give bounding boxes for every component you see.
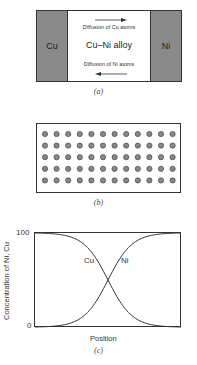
atom-icon — [66, 178, 71, 183]
atom-icon — [89, 155, 94, 160]
atom-icon — [135, 166, 140, 171]
atom-icon — [112, 178, 117, 183]
caption-b: (b) — [0, 198, 197, 207]
atom-icon — [124, 155, 129, 160]
atom-icon — [42, 178, 47, 183]
atom-icon — [54, 166, 59, 171]
atom-icon — [147, 143, 152, 148]
atom-icon — [100, 143, 105, 148]
atom-icon — [66, 166, 71, 171]
atom-icon — [77, 155, 82, 160]
atom-icon — [170, 166, 175, 171]
atom-icon — [112, 155, 117, 160]
atom-icon — [158, 178, 163, 183]
atom-icon — [89, 178, 94, 183]
arrow-right-icon — [95, 17, 127, 23]
atom-icon — [124, 166, 129, 171]
atom-icon — [135, 131, 140, 136]
atom-grid — [37, 124, 180, 192]
atom-icon — [158, 155, 163, 160]
atom-icon — [100, 131, 105, 136]
atom-icon — [42, 143, 47, 148]
atom-icon — [66, 131, 71, 136]
atom-icon — [77, 178, 82, 183]
ni-diffusion-label: Diffusion of Ni atoms — [68, 61, 150, 67]
atom-icon — [112, 131, 117, 136]
caption-a: (a) — [0, 87, 197, 96]
ni-block: Ni — [150, 11, 181, 81]
alloy-label: Cu–Ni alloy — [68, 40, 150, 50]
atom-icon — [147, 178, 152, 183]
atom-icon — [66, 143, 71, 148]
atom-icon — [147, 155, 152, 160]
ni-label: Ni — [162, 41, 171, 51]
atom-icon — [158, 143, 163, 148]
atom-icon — [124, 143, 129, 148]
atom-icon — [147, 166, 152, 171]
atom-icon — [42, 166, 47, 171]
ni-curve — [35, 233, 181, 327]
atom-icon — [66, 155, 71, 160]
atom-icon — [170, 131, 175, 136]
atom-icon — [158, 131, 163, 136]
cu-block: Cu — [37, 11, 68, 81]
diffusion-couple-diagram: Cu Diffusion of Cu atoms Cu–Ni alloy Dif… — [36, 10, 182, 82]
x-axis-label: Position — [90, 334, 117, 343]
alloy-atom-lattice — [36, 123, 181, 193]
arrow-left-icon — [95, 71, 127, 77]
cu-label: Cu — [46, 41, 58, 51]
atom-icon — [77, 143, 82, 148]
atom-icon — [135, 155, 140, 160]
atom-icon — [89, 143, 94, 148]
y-tick-0: 0 — [27, 321, 31, 330]
cu-diffusion-label: Diffusion of Cu atoms — [68, 24, 150, 30]
atom-icon — [77, 166, 82, 171]
atom-icon — [54, 143, 59, 148]
atom-icon — [135, 178, 140, 183]
atom-icon — [54, 178, 59, 183]
atom-icon — [100, 155, 105, 160]
atom-icon — [42, 155, 47, 160]
atom-icon — [170, 178, 175, 183]
atom-icon — [54, 131, 59, 136]
cu-curve-label: Cu — [84, 256, 94, 265]
ni-curve-label: Ni — [121, 256, 129, 265]
atom-icon — [112, 143, 117, 148]
caption-c: (c) — [0, 346, 197, 355]
atom-icon — [124, 178, 129, 183]
atom-icon — [135, 143, 140, 148]
alloy-region: Diffusion of Cu atoms Cu–Ni alloy Diffus… — [68, 11, 150, 81]
atom-icon — [170, 155, 175, 160]
atom-icon — [158, 166, 163, 171]
atom-icon — [112, 166, 117, 171]
atom-icon — [170, 143, 175, 148]
atom-icon — [100, 178, 105, 183]
atom-icon — [77, 131, 82, 136]
concentration-profile-chart — [34, 232, 182, 328]
atom-icon — [147, 131, 152, 136]
atom-icon — [100, 166, 105, 171]
atom-icon — [54, 155, 59, 160]
atom-icon — [124, 131, 129, 136]
y-axis-label: Concentration of Ni, Cu — [2, 242, 11, 320]
atom-icon — [89, 131, 94, 136]
y-tick-100: 100 — [16, 228, 29, 237]
atom-icon — [89, 166, 94, 171]
atom-icon — [42, 131, 47, 136]
